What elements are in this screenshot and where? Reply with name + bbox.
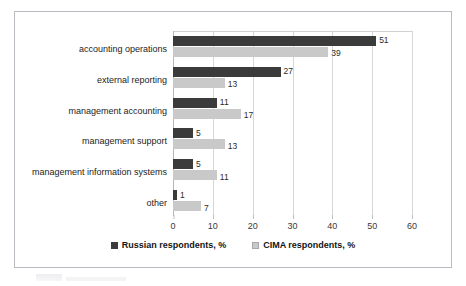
bar-russian bbox=[173, 36, 376, 46]
bar-value-label: 39 bbox=[331, 48, 340, 58]
bar-cima bbox=[173, 139, 225, 149]
bar-value-label: 27 bbox=[284, 66, 293, 76]
category-row: accounting operations5139 bbox=[173, 31, 412, 62]
bar-value-label: 13 bbox=[228, 79, 237, 89]
bar-value-label: 1 bbox=[180, 190, 185, 200]
bar-cima bbox=[173, 201, 201, 211]
scan-artifact bbox=[36, 274, 62, 281]
x-tick-label: 0 bbox=[170, 220, 175, 232]
category-label: management support bbox=[82, 136, 167, 146]
scan-artifact-secondary bbox=[66, 277, 126, 281]
bar-cima bbox=[173, 78, 225, 88]
x-tick-mark bbox=[213, 215, 214, 219]
category-label: accounting operations bbox=[79, 44, 167, 54]
bar-russian bbox=[173, 190, 177, 200]
bar-cima bbox=[173, 170, 217, 180]
x-tick-label: 30 bbox=[287, 220, 297, 232]
gridline bbox=[412, 31, 413, 216]
bar-value-label: 5 bbox=[196, 159, 201, 169]
bar-value-label: 7 bbox=[204, 203, 209, 213]
legend-swatch-icon bbox=[111, 242, 118, 249]
category-label: external reporting bbox=[97, 75, 167, 85]
bar-value-label: 13 bbox=[228, 141, 237, 151]
bar-value-label: 5 bbox=[196, 128, 201, 138]
category-row: other17 bbox=[173, 185, 412, 216]
bar-value-label: 17 bbox=[244, 110, 253, 120]
x-tick-mark bbox=[173, 215, 174, 219]
bar-russian bbox=[173, 67, 281, 77]
bar-cima bbox=[173, 47, 328, 57]
legend-label: Russian respondents, % bbox=[122, 240, 227, 251]
x-axis-tick-labels: 0102030405060 bbox=[173, 220, 412, 234]
bar-russian bbox=[173, 159, 193, 169]
category-row: management information systems511 bbox=[173, 154, 412, 185]
x-tick-mark bbox=[332, 215, 333, 219]
category-row: management accounting1117 bbox=[173, 93, 412, 124]
bar-value-label: 11 bbox=[220, 172, 229, 182]
x-tick-mark bbox=[292, 215, 293, 219]
category-label: other bbox=[146, 198, 167, 208]
category-label: management accounting bbox=[68, 106, 167, 116]
x-tick-mark bbox=[412, 215, 413, 219]
legend-label: CIMA respondents, % bbox=[263, 240, 355, 251]
bar-cima bbox=[173, 109, 241, 119]
bar-russian bbox=[173, 128, 193, 138]
legend-item[interactable]: CIMA respondents, % bbox=[252, 240, 355, 251]
category-label: management information systems bbox=[32, 167, 167, 177]
x-tick-label: 20 bbox=[248, 220, 258, 232]
bar-value-label: 51 bbox=[379, 35, 388, 45]
x-tick-label: 40 bbox=[327, 220, 337, 232]
category-row: management support513 bbox=[173, 124, 412, 155]
x-tick-label: 50 bbox=[367, 220, 377, 232]
legend-item[interactable]: Russian respondents, % bbox=[111, 240, 227, 251]
chart-legend: Russian respondents, %CIMA respondents, … bbox=[15, 240, 451, 251]
plot-area: accounting operations5139external report… bbox=[173, 31, 412, 216]
x-tick-mark bbox=[372, 215, 373, 219]
x-tick-mark bbox=[253, 215, 254, 219]
bar-russian bbox=[173, 98, 217, 108]
x-tick-label: 10 bbox=[208, 220, 218, 232]
chart-frame: accounting operations5139external report… bbox=[14, 11, 452, 268]
category-row: external reporting2713 bbox=[173, 62, 412, 93]
x-tick-label: 60 bbox=[407, 220, 417, 232]
legend-swatch-icon bbox=[252, 242, 259, 249]
bar-value-label: 11 bbox=[220, 97, 229, 107]
